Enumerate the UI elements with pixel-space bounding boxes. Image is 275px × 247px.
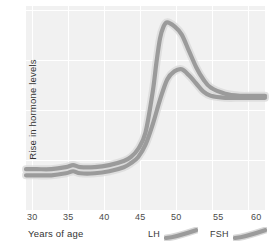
x-tick-label-40: 40 — [99, 212, 109, 222]
legend-swatch-lh-curve-icon — [164, 227, 198, 241]
x-tick-label-30: 30 — [27, 212, 37, 222]
x-axis-title: Years of age — [28, 228, 83, 239]
x-tick-label-45: 45 — [135, 212, 145, 222]
legend-item-lh: LH — [148, 227, 198, 241]
legend-label-fsh: FSH — [210, 229, 229, 239]
x-tick-label-35: 35 — [63, 212, 73, 222]
legend-label-lh: LH — [148, 229, 160, 239]
x-tick-label-50: 50 — [171, 212, 181, 222]
x-tick-label-55: 55 — [213, 212, 223, 222]
legend-item-fsh: FSH — [210, 227, 267, 241]
data-curves — [0, 0, 275, 247]
y-axis-title: Rise in hormone levels — [27, 35, 38, 185]
legend-swatch-fsh-curve-icon — [233, 227, 267, 241]
hormone-levels-line-chart: 30 35 40 45 50 55 60 Years of age Rise i… — [0, 0, 275, 247]
x-tick-label-60: 60 — [251, 212, 261, 222]
